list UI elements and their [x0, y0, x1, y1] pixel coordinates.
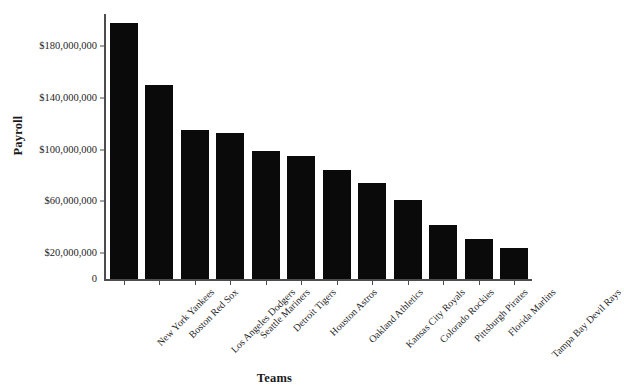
x-axis-title: Teams: [0, 371, 549, 386]
x-axis-tick-mark: [159, 281, 160, 285]
x-axis-tick-mark: [230, 281, 231, 285]
bar: [500, 248, 528, 279]
x-axis-tick-label: Los Angeles Dodgers: [229, 287, 297, 355]
x-axis-tick-mark: [266, 281, 267, 285]
x-axis-tick-labels: New York YankeesBoston Red SoxLos Angele…: [104, 281, 532, 373]
y-axis-tick-mark: [100, 98, 104, 99]
y-axis-title: Payroll: [11, 96, 26, 176]
y-axis-tick-label: $140,000,000: [5, 93, 97, 104]
bar: [216, 133, 244, 279]
bar: [358, 183, 386, 279]
y-axis-tick-mark: [100, 253, 104, 254]
bar: [110, 23, 138, 279]
bar: [429, 225, 457, 279]
x-axis-tick-mark: [514, 281, 515, 285]
bar: [323, 170, 351, 279]
y-axis-tick-label: 0: [5, 274, 97, 285]
bar-series: [106, 14, 532, 279]
x-axis-tick-mark: [443, 281, 444, 285]
y-axis-tick-label: $60,000,000: [5, 196, 97, 207]
x-axis-tick-mark: [195, 281, 196, 285]
bar: [394, 200, 422, 279]
bar: [465, 239, 493, 279]
x-axis-tick-mark: [301, 281, 302, 285]
x-axis-tick-label-text: Los Angeles Dodgers: [229, 287, 297, 355]
y-axis-tick-mark: [100, 46, 104, 47]
y-axis-tick-mark: [100, 201, 104, 202]
x-axis-tick-mark: [372, 281, 373, 285]
x-axis-tick-mark: [479, 281, 480, 285]
bar: [252, 151, 280, 279]
x-axis-tick-label-text: Tampa Bay Devil Rays: [550, 287, 623, 360]
x-axis-tick-label: Tampa Bay Devil Rays: [550, 287, 623, 360]
bar: [287, 156, 315, 279]
y-axis-tick-mark: [100, 149, 104, 150]
y-axis-tick-label: $180,000,000: [5, 41, 97, 52]
plot-area: $180,000,000$140,000,000$100,000,000$60,…: [104, 14, 532, 279]
y-axis-tick-label: $100,000,000: [5, 144, 97, 155]
x-axis-tick-mark: [408, 281, 409, 285]
y-axis-tick-label: $20,000,000: [5, 248, 97, 259]
x-axis-tick-mark: [124, 281, 125, 285]
bar: [145, 85, 173, 279]
bar: [181, 130, 209, 279]
x-axis-tick-mark: [337, 281, 338, 285]
